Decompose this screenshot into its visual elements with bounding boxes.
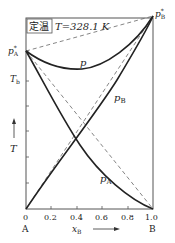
pA-star-label: p*A	[8, 44, 19, 57]
x-tick-labels: 0 0.2 0.4 0.6 0.8 1.0	[23, 213, 158, 222]
svg-text:0: 0	[23, 213, 28, 222]
x-arrow-head-icon	[114, 227, 120, 231]
pB-star-label: p*B	[155, 7, 166, 20]
t-arrow-head-icon	[12, 118, 16, 124]
y-axis-label: T	[10, 143, 18, 154]
Tb-label: Tb	[10, 74, 20, 85]
svg-text:0.8: 0.8	[121, 213, 134, 222]
x-left-end-label: A	[21, 224, 29, 234]
svg-text:0.4: 0.4	[70, 213, 83, 222]
pA-label: pA	[100, 173, 112, 186]
box-label: 定温	[29, 20, 49, 32]
svg-text:0.6: 0.6	[95, 213, 108, 222]
pB-label: pB	[114, 92, 126, 105]
p-label: p	[80, 57, 87, 68]
x-axis-label: xB	[72, 224, 82, 235]
svg-text:1.0: 1.0	[145, 213, 158, 222]
svg-text:0.2: 0.2	[44, 213, 57, 222]
vapor-pressure-diagram: 定温 T=328.1 K p pB pA p*A p*B Tb T 0	[0, 0, 175, 243]
x-right-end-label: B	[149, 224, 156, 234]
ideal-pA-line	[26, 51, 153, 209]
